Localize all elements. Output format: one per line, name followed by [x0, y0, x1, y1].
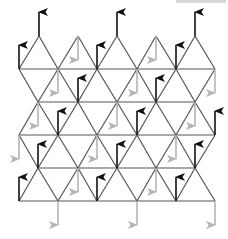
- lattice-edge: [156, 36, 176, 69]
- lattice-edge: [78, 36, 97, 69]
- lattice-edge: [78, 135, 97, 168]
- lattice-edge: [156, 102, 176, 135]
- lattice-edge: [137, 135, 156, 168]
- lattice-edge: [58, 102, 78, 135]
- lattice-edge: [137, 168, 156, 201]
- lattice-edge: [78, 168, 97, 201]
- lattice-edge: [176, 36, 195, 69]
- lattice-edge: [78, 69, 97, 102]
- lattice-edge: [156, 135, 176, 168]
- lattice-edge: [97, 168, 117, 201]
- lattice-edge: [19, 135, 38, 168]
- lattice-edge: [176, 168, 195, 201]
- lattice-edge: [137, 36, 156, 69]
- lattice-edge: [19, 36, 39, 69]
- lattice-edge: [97, 135, 117, 168]
- lattice-edge: [137, 69, 156, 102]
- lattice-edge: [38, 135, 58, 168]
- triangular-lattice-diagram: [0, 0, 228, 239]
- lattice-edge: [58, 168, 78, 201]
- lattice-edge: [97, 102, 117, 135]
- lattice-edge: [195, 102, 215, 135]
- lattice-edge: [97, 69, 117, 102]
- lattice-edge: [58, 36, 78, 69]
- lattice-edge: [58, 69, 78, 102]
- lattice-edge: [19, 168, 38, 201]
- lattice-edge: [38, 69, 58, 102]
- lattice-edge: [176, 69, 195, 102]
- lattice-edge: [38, 168, 58, 201]
- lattice-edge: [117, 135, 137, 168]
- lattice-edge: [117, 102, 137, 135]
- lattice-edge: [137, 102, 156, 135]
- lattice-edge: [78, 102, 97, 135]
- lattice-edge: [58, 135, 78, 168]
- lattice-edge: [156, 168, 176, 201]
- lattice-edge: [195, 135, 215, 168]
- lattice-edge: [19, 69, 38, 102]
- down-spin-arrows: [19, 36, 215, 225]
- lattice-edge: [195, 69, 215, 102]
- lattice-edge: [195, 168, 215, 201]
- lattice-edge: [19, 102, 38, 135]
- lattice-edge: [176, 102, 195, 135]
- lattice-edge: [117, 168, 137, 201]
- lattice-edge: [97, 36, 117, 69]
- lattice-edge: [176, 135, 195, 168]
- lattice-edge: [156, 69, 176, 102]
- lattice-edge: [39, 36, 58, 69]
- lattice-edge: [38, 102, 58, 135]
- lattice-edge: [195, 36, 215, 69]
- lattice-edge: [117, 69, 137, 102]
- lattice-edge: [117, 36, 137, 69]
